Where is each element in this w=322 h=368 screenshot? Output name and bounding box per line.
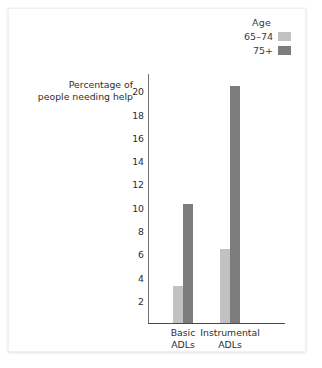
y-tick-label: 12 (132, 179, 144, 190)
legend-label-65-74: 65–74 (244, 31, 273, 42)
y-tick-label: 8 (138, 225, 144, 236)
x-group-label-line: ADLs (200, 339, 259, 351)
chart-legend: Age 65–74 75+ (244, 17, 291, 59)
y-tick-label: 16 (132, 132, 144, 143)
bar (183, 204, 193, 323)
y-tick-label: 4 (138, 272, 144, 283)
y-axis-title-line-2: people needing help (21, 91, 133, 103)
y-tick-label: 6 (138, 249, 144, 260)
bar (230, 86, 240, 323)
y-tick-label: 10 (132, 202, 144, 213)
x-group-label: BasicADLs (171, 327, 196, 350)
y-axis-title: Percentage of people needing help (21, 79, 133, 103)
x-group-label-line: Basic (171, 327, 196, 339)
y-tick-label: 18 (132, 109, 144, 120)
bar (173, 286, 183, 323)
y-axis-line (148, 74, 149, 324)
legend-label-75-plus: 75+ (253, 45, 273, 56)
x-group-label: InstrumentalADLs (200, 327, 259, 350)
plot-area: 2468101214161820 BasicADLsInstrumentalAD… (148, 74, 285, 324)
x-axis-line (148, 323, 285, 324)
y-tick-label: 20 (132, 86, 144, 97)
legend-item-65-74: 65–74 (244, 31, 291, 42)
y-tick-label: 14 (132, 156, 144, 167)
chart-card: Age 65–74 75+ Percentage of people needi… (8, 8, 306, 352)
legend-item-75-plus: 75+ (244, 45, 291, 56)
x-group-label-line: Instrumental (200, 327, 259, 339)
legend-title: Age (244, 17, 291, 28)
legend-swatch-75-plus (278, 46, 291, 55)
x-group-label-line: ADLs (171, 339, 196, 351)
bar (220, 249, 230, 323)
legend-swatch-65-74 (278, 32, 291, 41)
y-tick-label: 2 (138, 295, 144, 306)
y-axis-title-line-1: Percentage of (21, 79, 133, 91)
